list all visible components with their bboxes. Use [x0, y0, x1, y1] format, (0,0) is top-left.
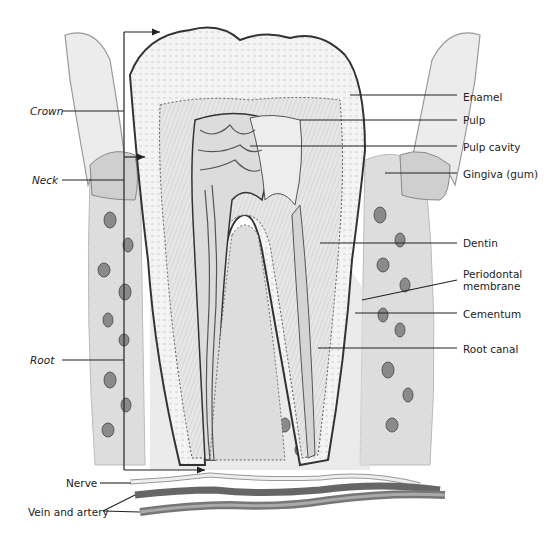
label-gingiva: Gingiva (gum): [463, 168, 538, 180]
tooth: [130, 28, 365, 465]
label-pulp: Pulp: [463, 114, 485, 126]
tooth-diagram: CrownNeckRootNerveVein and arteryEnamelP…: [0, 0, 548, 545]
label-root: Root: [30, 354, 54, 366]
label-nerve: Nerve: [66, 477, 97, 489]
label-neck: Neck: [32, 174, 58, 186]
nerve-and-vessels: [130, 475, 445, 512]
label-root-canal: Root canal: [463, 343, 518, 355]
label-cementum: Cementum: [463, 308, 521, 320]
label-crown: Crown: [30, 105, 63, 117]
label-pulp-cavity: Pulp cavity: [463, 141, 520, 153]
label-vein-and-artery: Vein and artery: [28, 506, 109, 518]
label-enamel: Enamel: [463, 91, 502, 103]
label-periodontal-membrane: Periodontal membrane: [463, 268, 522, 292]
label-dentin: Dentin: [463, 237, 498, 249]
